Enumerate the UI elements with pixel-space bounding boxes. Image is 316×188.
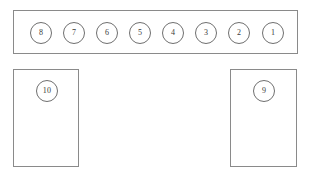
region-top-bar — [13, 10, 298, 54]
seat-label: 4 — [171, 29, 175, 37]
seat-label: 5 — [138, 29, 142, 37]
seat-circle-9[interactable]: 9 — [253, 80, 275, 102]
seat-circle-4[interactable]: 4 — [162, 22, 184, 44]
seat-label: 9 — [262, 87, 266, 95]
seat-label: 1 — [271, 29, 275, 37]
seat-label: 6 — [105, 29, 109, 37]
seat-circle-8[interactable]: 8 — [30, 22, 52, 44]
seat-label: 2 — [237, 29, 241, 37]
seat-circle-6[interactable]: 6 — [96, 22, 118, 44]
seat-circle-5[interactable]: 5 — [129, 22, 151, 44]
seat-label: 8 — [39, 29, 43, 37]
seat-circle-7[interactable]: 7 — [63, 22, 85, 44]
seat-label: 7 — [72, 29, 76, 37]
seat-label: 3 — [204, 29, 208, 37]
seat-circle-3[interactable]: 3 — [195, 22, 217, 44]
seat-circle-10[interactable]: 10 — [36, 80, 58, 102]
seat-label: 10 — [43, 87, 51, 95]
diagram-canvas: 87654321109 — [0, 0, 316, 188]
seat-circle-2[interactable]: 2 — [228, 22, 250, 44]
seat-circle-1[interactable]: 1 — [262, 22, 284, 44]
